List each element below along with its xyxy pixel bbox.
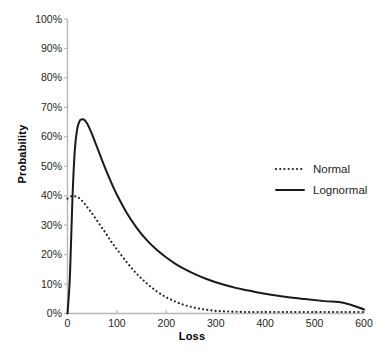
x-tick-label: 300 — [194, 318, 238, 329]
legend-swatch-dotted-icon — [275, 161, 305, 177]
x-tick-label: 200 — [144, 318, 188, 329]
x-axis-title: Loss — [0, 330, 384, 342]
legend-swatch-solid-icon — [275, 182, 305, 198]
legend-label-normal: Normal — [313, 161, 350, 177]
chart-container: 0%10%20%30%40%50%60%70%80%90%100% 010020… — [0, 0, 384, 363]
x-tick-label: 100 — [95, 318, 139, 329]
x-tick-label: 500 — [293, 318, 337, 329]
x-tick-label: 600 — [342, 318, 384, 329]
x-tick-label: 0 — [46, 318, 90, 329]
legend-label-lognormal: Lognormal — [313, 182, 367, 198]
y-axis-title: Probability — [16, 84, 28, 224]
x-tick-label: 400 — [243, 318, 287, 329]
